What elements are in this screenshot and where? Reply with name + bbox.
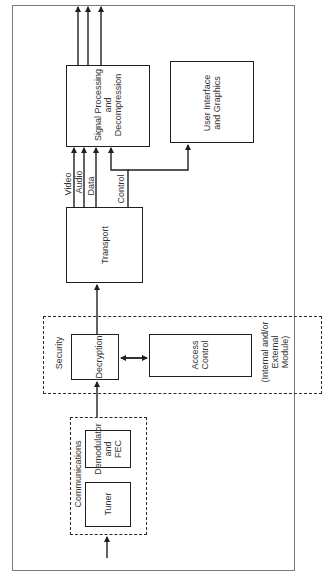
user-interface-label: User Interface and Graphics	[202, 75, 222, 132]
demodulator-label: Demodulator and FEC	[93, 423, 123, 475]
data-signal-label: Data	[86, 176, 96, 195]
tuner-label: Tuner	[103, 492, 113, 515]
access-control-label: Access Control	[190, 340, 210, 369]
security-label: Security	[54, 337, 64, 370]
communications-label: Communications	[73, 440, 83, 507]
connector-lines	[0, 0, 332, 576]
signal-processing-label: Signal Processing and Decompression	[93, 69, 123, 141]
module-note: (Internal and/or External Module)	[260, 321, 290, 382]
video-signal-label: Video	[63, 173, 73, 196]
audio-signal-label: Audio	[74, 170, 84, 193]
transport-label: Transport	[100, 226, 110, 264]
control-signal-label: Control	[116, 174, 126, 203]
decryption-label: Decryption	[94, 335, 104, 378]
